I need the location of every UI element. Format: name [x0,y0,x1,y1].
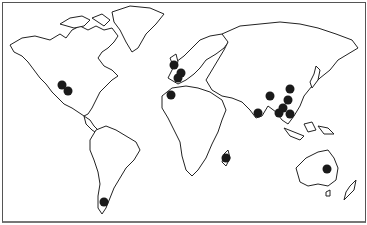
indonesia-outline [284,122,334,140]
south-america-outline [90,126,140,214]
map-marker-dot [167,91,176,100]
map-marker-dot [254,109,263,118]
map-marker-dot [170,61,179,70]
map-marker-dot [174,74,183,83]
arctic-islands-outline [60,14,110,28]
map-marker-dot [284,96,293,105]
map-marker-dot [286,110,295,119]
map-marker-dot [286,85,295,94]
map-marker-dot [222,154,231,163]
north-america-outline [10,26,118,116]
new-zealand-outline [344,180,356,200]
map-marker-dot [323,165,332,174]
world-map [0,0,367,225]
greenland-outline [112,6,164,52]
map-marker-dot [100,198,109,207]
map-marker-dot [266,92,275,101]
australia-outline [296,150,338,186]
map-marker-dot [275,109,284,118]
tasmania-outline [326,190,330,196]
map-marker-dot [64,87,73,96]
africa-outline [162,86,226,176]
